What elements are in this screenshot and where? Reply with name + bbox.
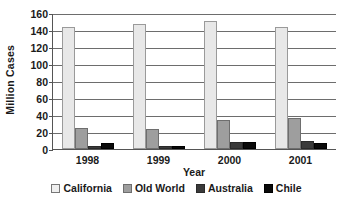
y-tick-label: 80 xyxy=(36,77,48,88)
x-axis-title: Year xyxy=(52,166,336,178)
bar xyxy=(217,120,230,149)
y-axis-title: Million Cases xyxy=(2,0,18,160)
plot-area xyxy=(52,14,336,150)
bar-group xyxy=(53,14,124,149)
y-tick-mark xyxy=(49,48,53,49)
bar xyxy=(146,129,159,149)
y-tick-label: 140 xyxy=(30,26,48,37)
bar xyxy=(133,24,146,149)
legend-item[interactable]: Old World xyxy=(123,182,185,194)
bar xyxy=(159,146,172,149)
legend-label: Old World xyxy=(135,182,185,194)
y-tick-label: 40 xyxy=(36,111,48,122)
bar xyxy=(288,118,301,149)
legend-item[interactable]: Australia xyxy=(196,182,253,194)
y-tick-mark xyxy=(49,82,53,83)
y-axis-tick-labels: 020406080100120140160 xyxy=(18,14,48,150)
legend-label: Chile xyxy=(276,182,302,194)
legend-label: California xyxy=(63,182,111,194)
legend-swatch-icon xyxy=(264,184,273,193)
bar xyxy=(301,141,314,149)
bar-chart: Million Cases 020406080100120140160 1998… xyxy=(0,0,353,201)
y-tick-mark xyxy=(49,14,53,15)
y-tick-label: 60 xyxy=(36,94,48,105)
bar-group xyxy=(265,14,336,149)
legend-item[interactable]: Chile xyxy=(264,182,302,194)
y-tick-label: 0 xyxy=(42,145,48,156)
bar xyxy=(314,143,327,149)
bar-group xyxy=(195,14,266,149)
bar-group xyxy=(124,14,195,149)
bar xyxy=(230,142,243,149)
legend-item[interactable]: California xyxy=(51,182,111,194)
y-tick-label: 20 xyxy=(36,128,48,139)
legend-label: Australia xyxy=(208,182,253,194)
y-tick-label: 100 xyxy=(30,60,48,71)
y-tick-mark xyxy=(49,99,53,100)
legend-swatch-icon xyxy=(51,184,60,193)
y-tick-mark xyxy=(49,133,53,134)
y-tick-mark xyxy=(49,116,53,117)
y-tick-label: 160 xyxy=(30,9,48,20)
bar xyxy=(243,142,256,149)
bar-groups xyxy=(53,14,336,149)
y-tick-mark xyxy=(49,31,53,32)
bar xyxy=(75,128,88,149)
y-tick-label: 120 xyxy=(30,43,48,54)
legend-swatch-icon xyxy=(196,184,205,193)
y-tick-mark xyxy=(49,65,53,66)
bar xyxy=(88,146,101,149)
y-tick-mark xyxy=(49,150,53,151)
bar xyxy=(62,27,75,149)
bar xyxy=(172,146,185,149)
bar xyxy=(204,21,217,149)
legend: CaliforniaOld WorldAustraliaChile xyxy=(0,182,353,194)
bar xyxy=(101,143,114,149)
bar xyxy=(275,27,288,149)
legend-swatch-icon xyxy=(123,184,132,193)
y-axis-title-text: Million Cases xyxy=(4,45,16,115)
